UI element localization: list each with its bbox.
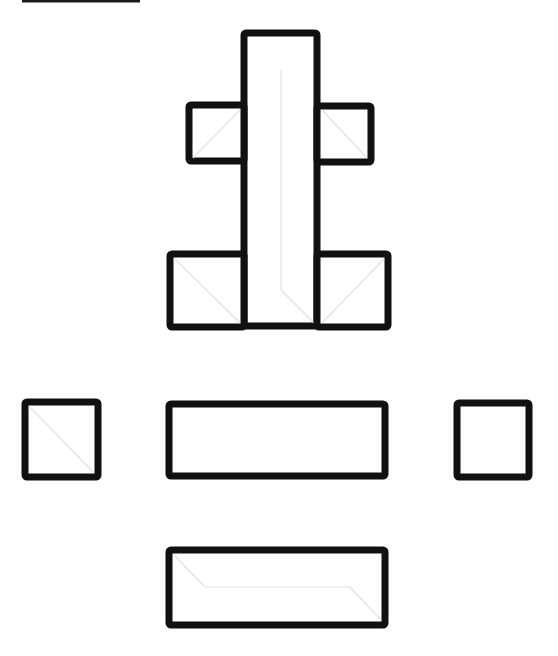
lower-left-block — [170, 254, 244, 327]
right-square-outline — [457, 403, 529, 477]
bottom-rectangle — [169, 550, 385, 625]
upper-left-flap — [189, 105, 244, 161]
upper-left-flap-outline — [189, 105, 244, 161]
upper-right-flap — [317, 106, 371, 162]
right-square — [457, 403, 529, 477]
middle-rectangle-outline — [169, 404, 385, 476]
middle-rectangle — [169, 404, 385, 476]
left-square — [25, 402, 98, 477]
diagram-canvas — [0, 0, 558, 656]
lower-right-block-outline — [317, 254, 388, 327]
lower-right-block — [317, 254, 388, 327]
tall-center-panel — [244, 33, 317, 326]
net-shapes — [25, 33, 529, 625]
